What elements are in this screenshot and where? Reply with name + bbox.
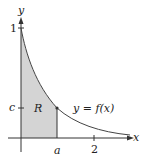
y-axis-arrow-icon	[19, 17, 24, 24]
tick-label-y-one: 1	[10, 22, 17, 35]
tick-label-y-c: c	[9, 101, 15, 114]
x-axis-label: x	[133, 131, 140, 144]
region-label: R	[33, 102, 42, 115]
y-axis-label: y	[17, 4, 25, 17]
figure: y x 1 c a 2 R y = f(x)	[0, 0, 146, 163]
tick-label-x-two: 2	[91, 143, 98, 156]
curve-label: y = f(x)	[72, 102, 114, 115]
tick-label-x-a: a	[54, 144, 61, 157]
point-a-c	[55, 106, 58, 109]
